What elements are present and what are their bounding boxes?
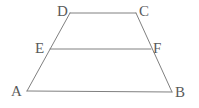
geometry-figure: D C E F A B xyxy=(0,0,199,108)
vertex-label-a: A xyxy=(11,84,22,99)
segment-ab xyxy=(27,91,172,92)
vertex-label-d: D xyxy=(57,4,68,19)
vertex-label-e: E xyxy=(35,41,44,56)
vertex-label-f: F xyxy=(153,41,161,56)
trapezoid-diagram xyxy=(0,0,199,108)
vertex-label-c: C xyxy=(139,4,149,19)
segment-ad xyxy=(27,13,70,91)
vertex-label-b: B xyxy=(175,85,185,100)
